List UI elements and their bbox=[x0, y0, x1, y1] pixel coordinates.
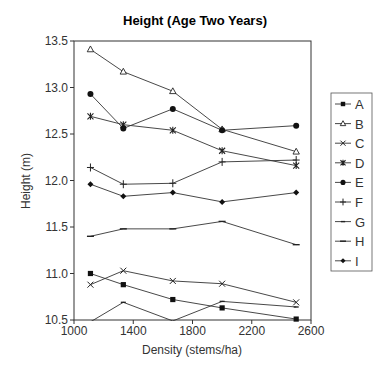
line-chart: Height (Age Two Years) 10.511.011.512.01… bbox=[0, 0, 391, 374]
diamond-marker-icon bbox=[170, 190, 176, 196]
x-tick-label: 1800 bbox=[179, 324, 206, 338]
circle-marker-icon bbox=[340, 180, 345, 185]
circle-marker-icon bbox=[120, 125, 126, 131]
legend-label: C bbox=[355, 136, 364, 151]
x-marker-icon bbox=[87, 282, 93, 288]
legend-label: H bbox=[355, 234, 364, 249]
series-layer bbox=[87, 46, 300, 322]
series-line bbox=[90, 116, 296, 165]
y-axis: 10.511.011.512.012.513.013.5 bbox=[45, 34, 74, 327]
circle-marker-icon bbox=[219, 127, 225, 133]
plus-marker-icon bbox=[120, 180, 127, 188]
square-marker-icon bbox=[121, 282, 126, 287]
series-line bbox=[90, 49, 296, 151]
triangle-marker-icon bbox=[87, 46, 93, 52]
series-line bbox=[90, 160, 296, 184]
series-e bbox=[87, 91, 299, 133]
x-tick-label: 2200 bbox=[238, 324, 265, 338]
series-b bbox=[87, 46, 299, 154]
series-a bbox=[88, 271, 299, 322]
legend: ABCDEFGHI bbox=[331, 93, 372, 271]
square-marker-icon bbox=[294, 316, 299, 321]
series-line bbox=[90, 221, 296, 244]
chart-title: Height (Age Two Years) bbox=[123, 13, 267, 28]
legend-label: G bbox=[355, 215, 365, 230]
legend-label: B bbox=[355, 117, 364, 132]
circle-marker-icon bbox=[170, 106, 176, 112]
diamond-marker-icon bbox=[120, 193, 126, 199]
y-tick-label: 13.0 bbox=[45, 81, 69, 95]
x-marker-icon bbox=[293, 299, 299, 305]
legend-label: E bbox=[355, 175, 364, 190]
series-line bbox=[90, 274, 296, 320]
square-marker-icon bbox=[88, 271, 93, 276]
triangle-marker-icon bbox=[120, 68, 126, 74]
diamond-marker-icon bbox=[293, 190, 299, 196]
series-line bbox=[90, 184, 296, 202]
plus-marker-icon bbox=[169, 179, 176, 187]
series-h bbox=[87, 221, 300, 244]
legend-label: A bbox=[355, 97, 364, 112]
legend-label: I bbox=[355, 254, 359, 269]
square-marker-icon bbox=[170, 297, 175, 302]
plus-marker-icon bbox=[87, 163, 94, 171]
x-axis: 10001400180022002600 bbox=[61, 320, 325, 338]
series-line bbox=[90, 94, 296, 130]
series-line bbox=[90, 301, 296, 321]
diamond-marker-icon bbox=[87, 181, 93, 187]
y-tick-label: 12.0 bbox=[45, 174, 69, 188]
square-marker-icon bbox=[341, 102, 345, 106]
y-axis-label: Height (m) bbox=[19, 153, 33, 209]
plus-marker-icon bbox=[219, 158, 226, 166]
series-c bbox=[87, 268, 299, 306]
x-tick-label: 1000 bbox=[61, 324, 88, 338]
asterisk-marker-icon bbox=[87, 113, 93, 120]
legend-label: D bbox=[355, 156, 364, 171]
y-tick-label: 11.5 bbox=[46, 220, 69, 234]
series-i bbox=[87, 181, 299, 205]
square-marker-icon bbox=[220, 305, 225, 310]
circle-marker-icon bbox=[293, 123, 299, 129]
x-axis-label: Density (stems/ha) bbox=[142, 343, 242, 357]
plot-frame bbox=[74, 41, 311, 320]
y-tick-label: 11.0 bbox=[46, 267, 69, 281]
circle-marker-icon bbox=[87, 91, 93, 97]
y-tick-label: 13.5 bbox=[45, 34, 69, 48]
series-g bbox=[90, 301, 298, 321]
diamond-marker-icon bbox=[219, 199, 225, 205]
legend-label: F bbox=[355, 195, 363, 210]
x-tick-label: 2600 bbox=[298, 324, 325, 338]
series-f bbox=[87, 156, 300, 188]
x-tick-label: 1400 bbox=[120, 324, 147, 338]
plot-area bbox=[74, 41, 311, 320]
y-tick-label: 12.5 bbox=[45, 127, 69, 141]
